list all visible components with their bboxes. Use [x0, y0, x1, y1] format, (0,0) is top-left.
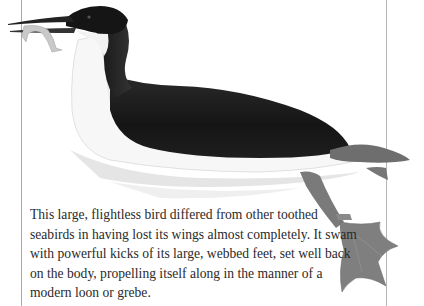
caption-line: on the body, propelling itself along in … [30, 264, 330, 284]
caption-line: with powerful kicks of its large, webbed… [30, 244, 330, 264]
caption-line: This large, flightless bird differed fro… [30, 205, 330, 225]
caption-line: modern loon or grebe. [30, 283, 330, 303]
bird-tail [330, 144, 410, 162]
bird-beak-upper [8, 16, 74, 25]
caption-line: seabirds in having lost its wings almost… [30, 225, 330, 245]
bird-eye [87, 15, 90, 18]
bird-head [66, 6, 128, 34]
caption-text: This large, flightless bird differed fro… [30, 205, 330, 303]
bird-body [110, 75, 350, 158]
